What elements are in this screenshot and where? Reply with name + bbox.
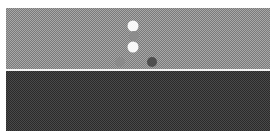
white-piece-lower[interactable]: [128, 42, 139, 53]
gray-piece-left[interactable]: [115, 57, 125, 67]
dark-piece-right[interactable]: [147, 57, 157, 67]
lower-field[interactable]: [6, 71, 270, 131]
gray-piece-middle[interactable]: [129, 31, 139, 41]
white-piece-top[interactable]: [128, 21, 139, 32]
